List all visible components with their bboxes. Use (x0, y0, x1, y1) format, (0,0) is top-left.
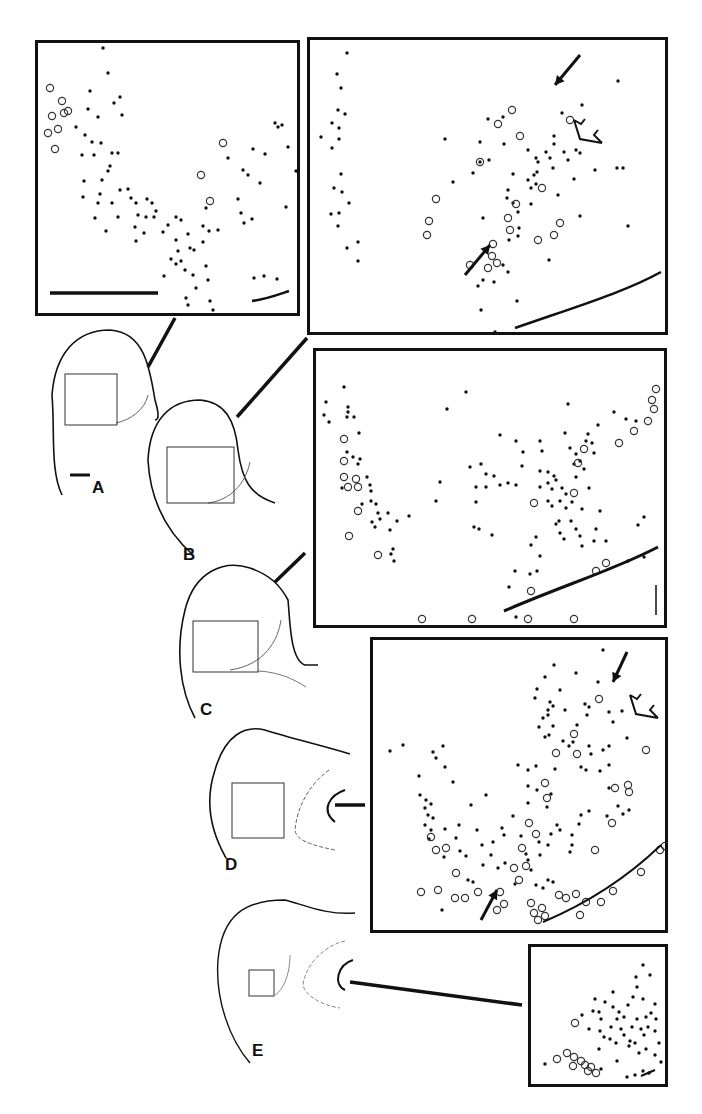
open-neuron-circle (58, 97, 65, 104)
filled-neuron-dot (526, 784, 529, 787)
filled-neuron-dot (544, 150, 547, 153)
filled-neuron-dot (183, 268, 186, 271)
filled-neuron-dot (599, 1067, 602, 1070)
filled-neuron-dot (211, 308, 214, 311)
open-neuron-circle (468, 615, 475, 622)
filled-neuron-dot (336, 108, 339, 111)
filled-neuron-dot (569, 519, 572, 522)
filled-neuron-dot (335, 72, 338, 75)
filled-neuron-dot (558, 828, 561, 831)
filled-neuron-dot (356, 462, 359, 465)
filled-neuron-dot (241, 168, 244, 171)
open-neuron-circle (562, 894, 569, 901)
filled-neuron-dot (587, 1027, 590, 1030)
filled-neuron-dot (458, 849, 461, 852)
filled-neuron-dot (635, 1017, 638, 1020)
filled-neuron-dot (580, 544, 583, 547)
filled-neuron-dot (534, 535, 537, 538)
filled-neuron-dot (506, 188, 509, 191)
filled-neuron-dot (417, 774, 420, 777)
open-neuron-circle (648, 396, 655, 403)
open-neuron-circle (423, 231, 430, 238)
filled-neuron-dot (538, 469, 541, 472)
filled-neuron-dot (563, 708, 566, 711)
filled-neuron-dot (593, 997, 596, 1000)
open-neuron-circle (577, 1057, 584, 1064)
filled-neuron-dot (546, 843, 549, 846)
filled-neuron-dot (516, 234, 519, 237)
filled-neuron-dot (110, 151, 113, 154)
open-neuron-circle (500, 900, 507, 907)
filled-neuron-dot (604, 539, 607, 542)
open-neuron-circle (488, 252, 495, 259)
filled-neuron-dot (552, 663, 555, 666)
section-label-d: D (225, 855, 237, 875)
boundary-curve (543, 845, 661, 922)
filled-neuron-dot (520, 464, 523, 467)
filled-neuron-dot (627, 808, 630, 811)
filled-neuron-dot (431, 816, 434, 819)
open-neuron-circle (570, 615, 577, 622)
filled-neuron-dot (500, 826, 503, 829)
open-neuron-circle (615, 439, 622, 446)
open-arrowhead-icon (574, 119, 602, 143)
filled-neuron-dot (624, 417, 627, 420)
filled-neuron-dot (239, 211, 242, 214)
filled-neuron-dot (118, 95, 121, 98)
filled-neuron-dot (616, 79, 619, 82)
filled-neuron-dot (507, 585, 510, 588)
boundary-curve (515, 272, 661, 328)
filled-neuron-dot (598, 509, 601, 512)
open-neuron-circle (46, 84, 53, 91)
filled-neuron-dot (521, 450, 524, 453)
filled-neuron-dot (332, 186, 335, 189)
filled-neuron-dot (555, 823, 558, 826)
filled-neuron-dot (556, 193, 559, 196)
filled-neuron-dot (589, 752, 592, 755)
filled-neuron-dot (484, 793, 487, 796)
filled-neuron-dot (330, 121, 333, 124)
filled-neuron-dot (597, 1010, 600, 1013)
filled-neuron-dot (145, 197, 148, 200)
filled-neuron-dot (324, 400, 327, 403)
section-e-roi-box (249, 970, 274, 996)
filled-neuron-dot (615, 166, 618, 169)
filled-neuron-dot (486, 117, 489, 120)
filled-neuron-dot (179, 218, 182, 221)
filled-neuron-dot (451, 180, 454, 183)
open-neuron-circle (530, 499, 537, 506)
filled-neuron-dot (250, 217, 253, 220)
filled-neuron-dot (144, 215, 147, 218)
filled-neuron-dot (535, 569, 538, 572)
filled-neuron-dot (484, 472, 487, 475)
filled-neuron-dot (356, 240, 359, 243)
filled-neuron-dot (553, 767, 556, 770)
open-neuron-circle (354, 507, 361, 514)
filled-neuron-dot (596, 423, 599, 426)
filled-neuron-dot (206, 278, 209, 281)
filled-neuron-dot (491, 840, 494, 843)
open-neuron-circle (493, 259, 500, 266)
filled-neuron-dot (263, 152, 266, 155)
filled-neuron-dot (534, 883, 537, 886)
filled-neuron-dot (339, 172, 342, 175)
filled-neuron-dot (574, 527, 577, 530)
filled-neuron-dot (511, 172, 514, 175)
open-neuron-circle (650, 405, 657, 412)
open-neuron-circle (661, 842, 665, 849)
filled-neuron-dot (343, 112, 346, 115)
filled-neuron-dot (429, 828, 432, 831)
filled-neuron-dot (540, 449, 543, 452)
filled-neuron-dot (642, 1033, 645, 1036)
filled-neuron-dot (358, 457, 361, 460)
filled-neuron-dot (529, 868, 532, 871)
filled-neuron-dot (548, 156, 551, 159)
filled-neuron-dot (474, 485, 477, 488)
filled-neuron-dot (574, 671, 577, 674)
open-neuron-circle (493, 906, 500, 913)
filled-neuron-dot (445, 407, 448, 410)
open-neuron-circle (591, 846, 598, 853)
filled-neuron-dot (533, 696, 536, 699)
filled-neuron-dot (434, 756, 437, 759)
filled-neuron-dot (186, 232, 189, 235)
